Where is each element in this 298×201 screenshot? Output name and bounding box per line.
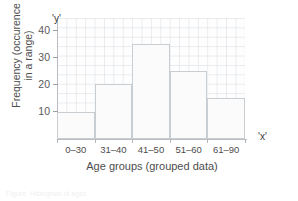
y-tick-mark-40 [53, 30, 58, 31]
y-axis-marker-label: 'y' [52, 13, 61, 24]
x-axis-marker-label: 'x' [258, 131, 267, 142]
x-tick-label-51-60: 51–60 [170, 144, 208, 155]
x-axis-title: Age groups (grouped data) [42, 160, 262, 172]
bar-0-30 [57, 112, 95, 139]
y-tick-mark-20 [53, 84, 58, 85]
y-axis-title-line-1: Frequency (occurence [11, 0, 23, 118]
x-tick-label-41-50: 41–50 [132, 144, 170, 155]
x-tick-mark-3 [170, 139, 171, 143]
y-axis-title-line-2: in a range) [22, 0, 34, 118]
x-tick-mark-0 [57, 139, 58, 143]
x-tick-label-31-40: 31–40 [95, 144, 133, 155]
x-axis-line [57, 139, 247, 140]
x-tick-mark-4 [207, 139, 208, 143]
histogram-figure: 40 30 20 10 0–30 31–40 41–50 51–60 61–90… [0, 0, 298, 201]
x-tick-mark-5 [245, 139, 246, 143]
bar-61-90 [207, 98, 245, 139]
x-tick-mark-2 [132, 139, 133, 143]
bar-41-50 [132, 44, 170, 140]
y-tick-mark-30 [53, 57, 58, 58]
figure-caption: Figure: Histogram of ages [6, 190, 87, 197]
y-axis-title: Frequency (occurence in a range) [11, 0, 34, 118]
x-tick-label-0-30: 0–30 [57, 144, 95, 155]
bar-51-60 [170, 71, 208, 139]
x-tick-label-61-90: 61–90 [207, 144, 245, 155]
bar-31-40 [95, 84, 133, 139]
x-tick-mark-1 [95, 139, 96, 143]
